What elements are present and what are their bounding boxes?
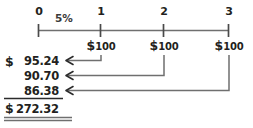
period-label-2: 2	[155, 6, 173, 18]
present-value-row-2: 90.70	[13, 70, 59, 83]
cash-flow-label-period-2: $100	[144, 40, 184, 53]
cash-flow-label-period-1: $100	[81, 40, 121, 53]
cash-flow-amount-1: 100	[95, 41, 115, 52]
cash-flow-currency-3: $	[215, 38, 224, 53]
cash-flow-label-period-3: $100	[209, 40, 249, 53]
interest-rate-label: 5%	[55, 13, 73, 24]
period-label-3: 3	[220, 6, 238, 18]
period-label-1: 1	[92, 6, 110, 18]
present-value-row-1: 95.24	[13, 55, 59, 68]
cash-flow-currency-1: $	[87, 38, 96, 53]
discount-arrow-period-2	[67, 55, 164, 76]
cash-flow-amount-3: 100	[223, 41, 243, 52]
present-value-timeline-figure: 0 1 2 3 5% $100 $100 $100 $ 95.24 90.70 …	[0, 0, 253, 128]
cash-flow-amount-2: 100	[158, 41, 178, 52]
present-value-row-3: 86.38	[13, 85, 59, 98]
period-label-0: 0	[30, 6, 48, 18]
total-currency-symbol: $	[5, 102, 14, 115]
cash-flow-currency-2: $	[150, 38, 159, 53]
total-present-value: 272.32	[16, 103, 59, 116]
